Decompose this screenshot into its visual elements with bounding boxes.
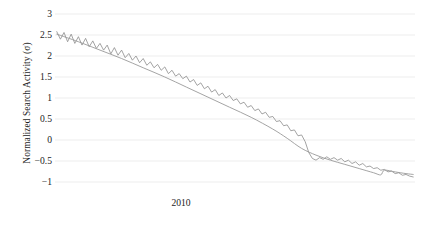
plot-area [0, 0, 421, 228]
observed-line-series [57, 32, 413, 177]
trend-line-series [57, 34, 413, 175]
data-series-layer [57, 32, 413, 177]
gridlines [55, 14, 415, 182]
chart-figure: Normalized Search Activity (σ) 32.521.51… [0, 0, 421, 228]
